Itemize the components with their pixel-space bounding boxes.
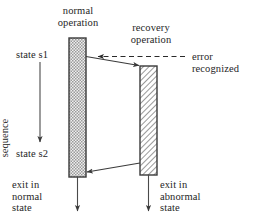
diagram-canvas: normal operation recovery operation erro… xyxy=(0,0,254,224)
recovery-operation-bar xyxy=(140,66,157,175)
label-state-s2: state s2 xyxy=(16,148,68,160)
label-state-s1: state s1 xyxy=(16,49,68,61)
return-to-normal-arrow xyxy=(87,163,140,172)
normal-operation-bar xyxy=(69,38,86,177)
label-error-recognized: error recognized xyxy=(192,51,252,74)
transfer-to-recovery-arrow xyxy=(86,57,139,66)
label-exit-normal-state: exit in normal state xyxy=(12,179,68,214)
label-state-sequence: state sequence xyxy=(0,108,10,168)
label-exit-abnormal-state: exit in abnormal state xyxy=(160,179,226,214)
label-recovery-operation: recovery operation xyxy=(114,22,188,45)
label-normal-operation: normal operation xyxy=(44,5,112,28)
